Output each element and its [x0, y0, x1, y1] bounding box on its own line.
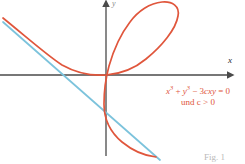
asymptote-line — [3, 22, 160, 160]
figure-caption: Fig. 1 — [204, 152, 225, 162]
y-axis-label: y — [112, 0, 116, 8]
equation-condition: und c > 0 — [152, 97, 244, 108]
folium-curve — [3, 2, 178, 157]
equation-term-cxy: cxy — [204, 86, 216, 96]
equation-annotation: x3 + y3 − 3cxy = 0 und c > 0 — [152, 86, 244, 107]
equation-equals-zero: = 0 — [216, 86, 230, 96]
figure-container: x y x3 + y3 − 3cxy = 0 und c > 0 Fig. 1 — [0, 0, 245, 164]
equation-minus-operator: − 3 — [190, 86, 204, 96]
plot-canvas — [0, 0, 245, 164]
x-axis-label: x — [228, 56, 232, 65]
equation-line-primary: x3 + y3 − 3cxy = 0 — [152, 86, 244, 97]
equation-plus-operator: + — [173, 86, 183, 96]
